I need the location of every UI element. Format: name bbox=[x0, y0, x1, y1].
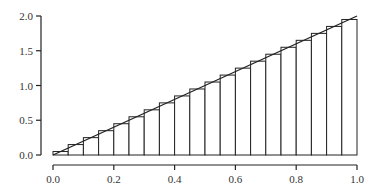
riemann-sum-chart: 0.00.51.01.52.0 0.00.20.40.60.81.0 bbox=[0, 0, 378, 189]
bar bbox=[235, 68, 250, 155]
x-tick-label: 0.8 bbox=[289, 173, 303, 185]
x-tick-label: 0.0 bbox=[46, 173, 60, 185]
y-tick-label: 0.0 bbox=[19, 149, 33, 161]
bar bbox=[99, 131, 114, 155]
bar bbox=[296, 40, 311, 155]
y-tick-label: 0.5 bbox=[19, 114, 33, 126]
bar bbox=[114, 124, 129, 155]
bar bbox=[342, 19, 357, 155]
bar bbox=[251, 61, 266, 155]
bar bbox=[175, 96, 190, 155]
x-axis: 0.00.20.40.60.81.0 bbox=[46, 165, 364, 185]
bar bbox=[281, 47, 296, 155]
x-tick-label: 1.0 bbox=[350, 173, 364, 185]
bar bbox=[144, 110, 159, 155]
x-tick-label: 0.6 bbox=[229, 173, 243, 185]
x-tick-label: 0.4 bbox=[168, 173, 182, 185]
x-tick-label: 0.2 bbox=[107, 173, 121, 185]
y-tick-label: 1.0 bbox=[19, 80, 33, 92]
bar bbox=[220, 75, 235, 155]
y-axis: 0.00.51.01.52.0 bbox=[19, 10, 41, 161]
y-tick-label: 1.5 bbox=[19, 45, 33, 57]
bar bbox=[129, 117, 144, 155]
bar bbox=[68, 145, 83, 155]
bar bbox=[190, 89, 205, 155]
bar bbox=[159, 103, 174, 155]
bar bbox=[205, 82, 220, 155]
bar bbox=[266, 54, 281, 155]
bar bbox=[311, 33, 326, 155]
bar bbox=[327, 26, 342, 155]
y-tick-label: 2.0 bbox=[19, 10, 33, 22]
